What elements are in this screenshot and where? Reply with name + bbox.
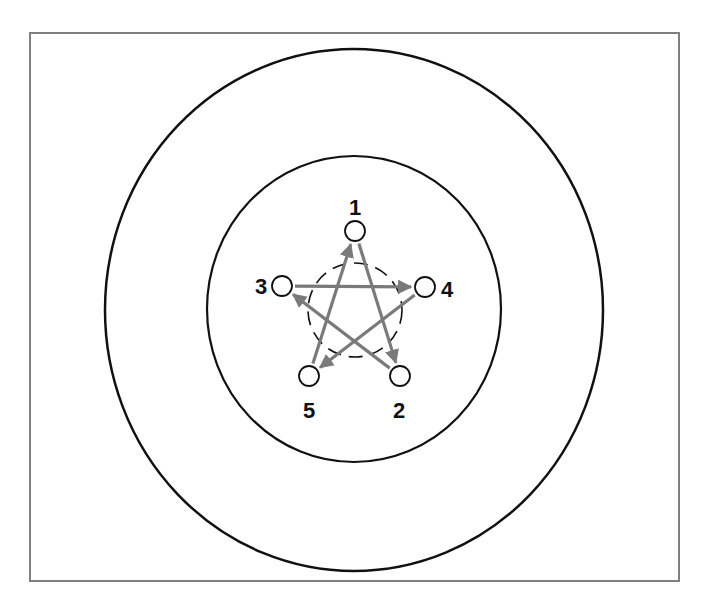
diagram-frame	[30, 33, 679, 581]
node-label: 4	[441, 277, 454, 302]
node-circle	[415, 277, 435, 297]
node-circle	[272, 276, 292, 296]
edge-arrow-3-to-4	[295, 286, 411, 287]
edge-arrow-2-to-3	[293, 294, 390, 368]
edge-arrow-1-to-2	[359, 243, 396, 362]
edge-arrow-4-to-5	[320, 295, 415, 368]
node-label: 2	[393, 398, 405, 423]
node-circle	[390, 366, 410, 386]
node-circle	[299, 366, 319, 386]
node-2: 2	[390, 366, 410, 423]
nodes: 12345	[255, 195, 454, 423]
node-4: 4	[415, 277, 454, 302]
node-label: 5	[303, 398, 315, 423]
node-5: 5	[299, 366, 319, 423]
node-3: 3	[255, 274, 292, 299]
edge-arrows	[293, 243, 415, 368]
edge-arrow-5-to-1	[313, 244, 351, 363]
node-circle	[345, 221, 365, 241]
star-network-diagram: 12345	[0, 0, 708, 602]
node-label: 1	[349, 195, 361, 220]
node-1: 1	[345, 195, 365, 241]
outer-ring	[105, 49, 603, 571]
node-label: 3	[255, 274, 267, 299]
